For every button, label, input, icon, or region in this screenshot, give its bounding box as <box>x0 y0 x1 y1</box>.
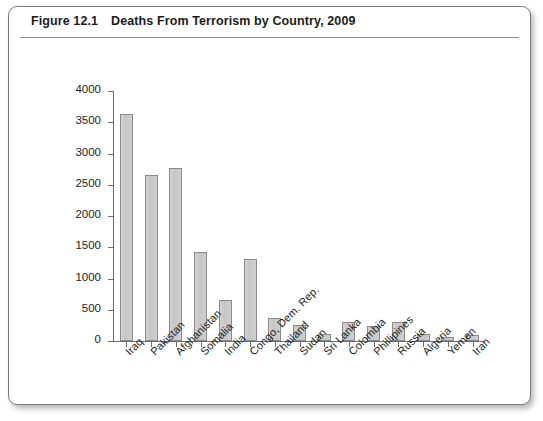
figure-caption: Figure 12.1Deaths From Terrorism by Coun… <box>31 14 356 28</box>
chart-plot-area: 40003500300025002000150010005000 IraqPak… <box>9 37 532 405</box>
y-tick-label: 3500 <box>75 114 101 126</box>
y-tick-label: 3000 <box>75 146 101 158</box>
figure-title: Deaths From Terrorism by Country, 2009 <box>111 14 355 28</box>
figure-number: Figure 12.1 <box>31 14 98 28</box>
bar-afghanistan <box>169 168 182 341</box>
y-tick-mark <box>108 341 113 342</box>
y-tick-mark <box>108 122 113 123</box>
figure-header: Figure 12.1Deaths From Terrorism by Coun… <box>9 7 530 37</box>
y-tick-label: 500 <box>82 302 101 314</box>
y-tick-label: 0 <box>95 333 101 345</box>
y-tick-mark <box>108 279 113 280</box>
y-tick-mark <box>108 216 113 217</box>
y-tick-mark <box>108 154 113 155</box>
y-tick-label: 2500 <box>75 177 101 189</box>
y-tick-mark <box>108 310 113 311</box>
bar-iraq <box>120 114 133 341</box>
y-tick-label: 4000 <box>75 83 101 95</box>
y-tick-mark <box>108 185 113 186</box>
y-tick-label: 2000 <box>75 208 101 220</box>
y-tick-label: 1500 <box>75 239 101 251</box>
figure-container: Figure 12.1Deaths From Terrorism by Coun… <box>8 6 531 405</box>
y-tick-label: 1000 <box>75 271 101 283</box>
bar-pakistan <box>145 175 158 341</box>
y-tick-mark <box>108 247 113 248</box>
bar-congo-dem-rep <box>244 259 257 342</box>
y-tick-mark <box>108 91 113 92</box>
